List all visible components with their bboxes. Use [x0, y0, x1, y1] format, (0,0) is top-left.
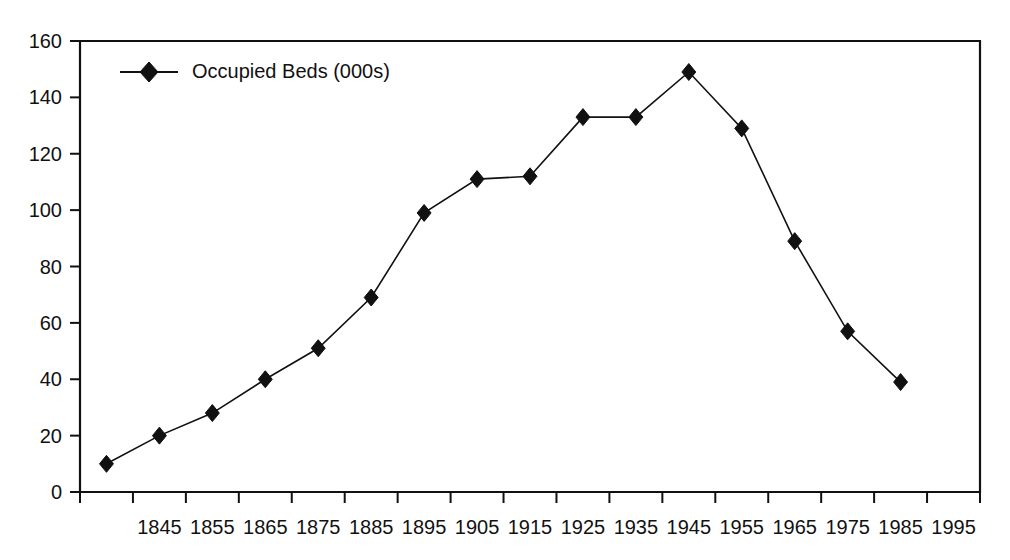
x-axis-tick-label: 1955 [720, 516, 765, 538]
y-axis-tick-label: 60 [40, 312, 62, 334]
y-axis-tick-label: 120 [29, 143, 62, 165]
x-axis-tick-label: 1845 [137, 516, 182, 538]
y-axis-tick-label: 160 [29, 30, 62, 52]
x-axis-tick-label: 1905 [455, 516, 500, 538]
legend-label-occupied-beds: Occupied Beds (000s) [192, 60, 390, 82]
x-axis-tick-label: 1885 [349, 516, 394, 538]
chart-container: 020406080100120140160 184518551865187518… [0, 0, 1010, 560]
x-axis-tick-label: 1855 [190, 516, 235, 538]
y-axis-tick-label: 40 [40, 368, 62, 390]
x-axis-tick-label: 1895 [402, 516, 447, 538]
x-axis-tick-label: 1945 [667, 516, 712, 538]
x-axis-tick-label: 1995 [931, 516, 976, 538]
x-axis-tick-label: 1865 [243, 516, 288, 538]
x-axis-tick-label: 1875 [296, 516, 341, 538]
y-axis-tick-label: 100 [29, 199, 62, 221]
x-axis-tick-label: 1975 [825, 516, 870, 538]
x-axis-tick-label: 1985 [878, 516, 923, 538]
x-axis-tick-label: 1935 [614, 516, 659, 538]
y-axis-tick-label: 80 [40, 256, 62, 278]
y-axis-tick-label: 140 [29, 86, 62, 108]
line-chart: 020406080100120140160 184518551865187518… [0, 0, 1010, 560]
y-axis-tick-label: 0 [51, 481, 62, 503]
y-axis-tick-label: 20 [40, 425, 62, 447]
x-axis-tick-label: 1965 [772, 516, 817, 538]
x-axis-tick-label: 1915 [508, 516, 553, 538]
x-axis-tick-label: 1925 [561, 516, 606, 538]
chart-background [0, 0, 1010, 560]
